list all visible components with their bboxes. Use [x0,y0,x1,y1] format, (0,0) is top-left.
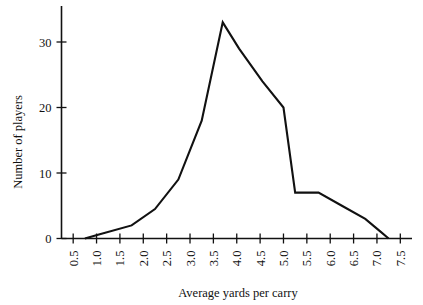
chart-canvas: Number of players 0102030 0.51.01.52.02.… [0,0,423,305]
x-axis-tick-label: 7.5 [394,251,408,267]
y-axis-tick-label: 30 [39,36,52,50]
y-axis-tick-label: 0 [45,232,51,246]
frequency-polygon-chart: Number of players 0102030 0.51.01.52.02.… [0,0,423,305]
data-series-line [85,22,389,238]
y-axis-tick-labels: 0102030 [39,36,52,247]
x-axis-tick-label: 5.0 [277,251,291,267]
x-axis-tick-label: 1.5 [113,251,127,267]
x-axis-tick-labels: 0.51.01.52.02.53.03.54.04.55.05.56.06.57… [67,251,408,267]
y-axis-title: Number of players [11,95,25,189]
x-axis-tick-label: 3.5 [207,251,221,267]
x-axis-tick-label: 2.0 [137,251,151,267]
y-axis-tick-label: 20 [39,101,52,115]
y-axis-tick-label: 10 [39,167,52,181]
x-axis-tick-label: 6.0 [324,251,338,267]
x-axis-tick-label: 5.5 [300,251,314,267]
x-axis-title: Average yards per carry [178,286,298,300]
x-axis-tick-label: 4.5 [254,251,268,267]
x-axis-tick-label: 3.0 [184,251,198,267]
x-axis-tick-label: 7.0 [370,251,384,267]
x-axis-tick-label: 1.0 [90,251,104,267]
x-axis-tick-label: 6.5 [347,251,361,267]
x-axis-tick-label: 4.0 [230,251,244,267]
x-axis-tick-label: 0.5 [67,251,81,267]
x-axis-tick-label: 2.5 [160,251,174,267]
